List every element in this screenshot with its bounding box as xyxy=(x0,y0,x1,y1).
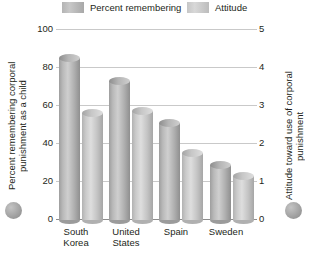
bar-body xyxy=(210,165,231,220)
legend-item-attitude: Attitude xyxy=(187,2,247,13)
y2-axis-tick-0: 0 xyxy=(259,214,279,224)
y2-axis-tick-2: 2 xyxy=(259,138,279,148)
series-1-swatch-icon xyxy=(62,2,84,13)
bar-united-states-percent-remembering xyxy=(109,77,130,220)
bar-spain-percent-remembering xyxy=(159,119,180,220)
bar-body xyxy=(182,153,203,220)
x-axis-label-sweden: Sweden xyxy=(196,226,256,237)
y2-axis-tick-4: 4 xyxy=(259,62,279,72)
legend-label-series-1: Percent remembering xyxy=(90,2,181,13)
bar-cap xyxy=(109,77,130,85)
y-axis-tick-40: 40 xyxy=(27,138,53,148)
bar-body xyxy=(109,81,130,220)
bar-sweden-attitude xyxy=(233,172,254,220)
y-axis-tick-20: 20 xyxy=(27,176,53,186)
bar-cap xyxy=(159,119,180,127)
x-axis-label-line1: Sweden xyxy=(196,226,256,237)
y2-axis-tick-1: 1 xyxy=(259,176,279,186)
y-axis-tick-0: 0 xyxy=(27,214,53,224)
bar-south-korea-percent-remembering xyxy=(59,54,80,220)
y2-axis-tick-5: 5 xyxy=(259,24,279,34)
bar-cap xyxy=(210,161,231,169)
bar-sweden-percent-remembering xyxy=(210,161,231,220)
chart-container: Percent remembering Attitude 100 80 60 4… xyxy=(0,0,318,263)
bar-body xyxy=(82,113,103,220)
bar-body xyxy=(233,176,254,220)
y-axis-tick-80: 80 xyxy=(27,62,53,72)
legend-item-percent-remembering: Percent remembering xyxy=(62,2,181,13)
y-axis-title: Percent remembering corporal punishment … xyxy=(6,42,28,210)
bar-south-korea-attitude xyxy=(82,109,103,220)
bars-layer xyxy=(56,29,257,220)
y-axis-tick-60: 60 xyxy=(27,100,53,110)
right-axis-marker-icon xyxy=(285,202,302,219)
bar-body xyxy=(159,123,180,220)
y2-axis-tick-3: 3 xyxy=(259,100,279,110)
y-axis-tick-100: 100 xyxy=(27,24,53,34)
bar-spain-attitude xyxy=(182,149,203,220)
x-axis-label-line2: States xyxy=(96,237,156,248)
series-2-swatch-icon xyxy=(187,2,209,13)
y2-axis-title: Attitude toward use of corporal punishme… xyxy=(283,62,305,210)
bar-body xyxy=(132,111,153,220)
left-axis-marker-icon xyxy=(5,202,22,219)
legend-label-series-2: Attitude xyxy=(215,2,247,13)
bar-body xyxy=(59,58,80,220)
chart-legend: Percent remembering Attitude xyxy=(0,2,318,18)
bar-united-states-attitude xyxy=(132,107,153,220)
bar-cap xyxy=(59,54,80,62)
plot-area xyxy=(56,29,257,220)
